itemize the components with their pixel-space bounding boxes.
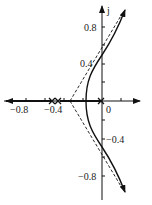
y-label-neg-0.4: −0.4 <box>106 134 124 145</box>
root-locus-plot: j 0.8 0.4 −0.4 −0.8 −0.8 −0.4 0 <box>0 0 152 205</box>
x-label-neg-0.4: −0.4 <box>44 104 62 115</box>
x-label-0: 0 <box>106 104 111 115</box>
y-label-0.4: 0.4 <box>80 58 93 69</box>
y-label-neg-0.8: −0.8 <box>78 171 96 182</box>
y-label-0.8: 0.8 <box>84 22 97 33</box>
x-label-neg-0.8: −0.8 <box>10 104 28 115</box>
imag-axis-label: j <box>106 5 110 16</box>
